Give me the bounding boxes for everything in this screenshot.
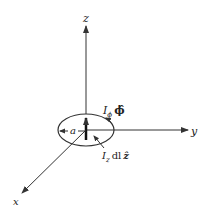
- axial-label-pointer: [94, 136, 104, 148]
- axial-current-label: Izdlẑ: [101, 150, 129, 164]
- x-axis-label: x: [13, 196, 19, 207]
- x-axis: [22, 130, 86, 193]
- azimuthal-current-label: Iϕϕ̂: [102, 104, 125, 119]
- z-axis-label: z: [82, 12, 89, 25]
- current-loop-diagram: z y x a Iϕϕ̂ Izdlẑ: [0, 0, 208, 212]
- radius-label: a: [70, 125, 76, 136]
- y-axis-label: y: [190, 125, 198, 138]
